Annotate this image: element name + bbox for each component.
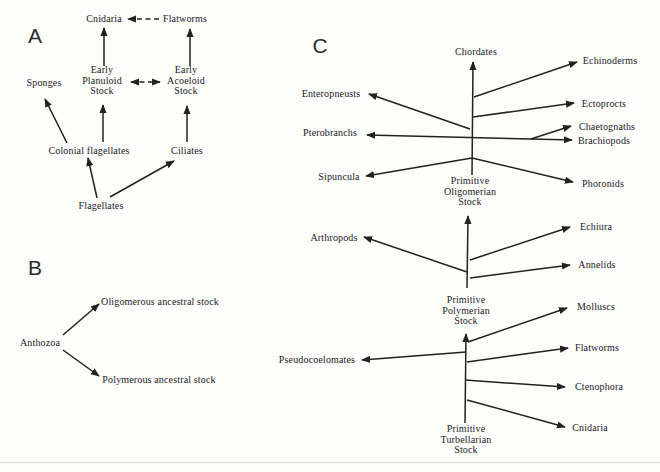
node-pterobranchs: Pterobranchs (303, 128, 357, 139)
node-chaetognaths: Chaetognaths (579, 122, 635, 133)
node-pseudocoelomates: Pseudocoelomates (279, 355, 355, 366)
node-echiura: Echiura (580, 222, 612, 233)
figure-phylogeny-diagrams: A Cnidaria Flatworms Early Planuloid Sto… (0, 0, 660, 472)
node-echinoderms: Echinoderms (583, 56, 637, 67)
node-molluscs: Molluscs (577, 302, 615, 313)
node-chordates: Chordates (455, 47, 497, 58)
node-primitive-turbellarian-stock: Primitive Turbellarian Stock (441, 424, 492, 456)
node-cnidaria-c: Cnidaria (572, 423, 608, 434)
node-sipuncula: Sipuncula (318, 172, 359, 183)
node-brachiopods: Brachiopods (578, 136, 630, 147)
node-primitive-polymerian-stock: Primitive Polymerian Stock (442, 295, 490, 327)
node-primitive-oligomerian-stock: Primitive Oligomerian Stock (444, 176, 496, 208)
node-flatworms-c: Flatworms (575, 343, 619, 354)
panel-c-letter: C (312, 34, 327, 58)
node-annelids: Annelids (578, 260, 615, 271)
scan-artifact-line (0, 462, 660, 463)
node-arthropods: Arthropods (310, 233, 357, 244)
node-phoronids: Phoronids (582, 179, 624, 190)
node-ctenophora: Ctenophora (575, 382, 623, 393)
panel-c: C Chordates Echinoderms Enteropneusts Ec… (0, 0, 660, 472)
node-enteropneusts: Enteropneusts (302, 89, 361, 100)
node-ectoprocts: Ectoprocts (582, 99, 626, 110)
